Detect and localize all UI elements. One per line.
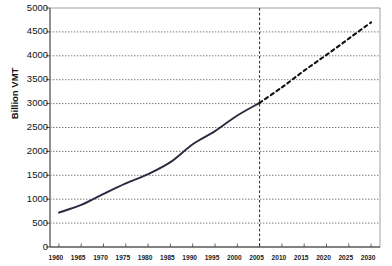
x-tick-label-2020: 2020 (316, 254, 331, 261)
x-tick-label-2005: 2005 (249, 254, 264, 261)
y-tick-label-1000: 1000 (14, 194, 48, 204)
x-tick-label-1990: 1990 (182, 254, 197, 261)
x-tick-label-2015: 2015 (294, 254, 309, 261)
x-tick-label-1975: 1975 (115, 254, 130, 261)
x-tick-label-1980: 1980 (138, 254, 153, 261)
y-tick-label-4500: 4500 (14, 26, 48, 36)
plot-area (0, 0, 392, 266)
y-tick-label-1500: 1500 (14, 170, 48, 180)
x-tick-label-1995: 1995 (205, 254, 220, 261)
y-tick-label-2000: 2000 (14, 146, 48, 156)
y-tick-label-0: 0 (14, 242, 48, 252)
x-tick-label-2025: 2025 (338, 254, 353, 261)
x-tick-label-2010: 2010 (272, 254, 287, 261)
x-tick-label-1960: 1960 (49, 254, 64, 261)
vmt-line-chart: Billion VMT 0500100015002000250030003500… (0, 0, 392, 266)
x-tick-label-2000: 2000 (227, 254, 242, 261)
x-tick-label-1985: 1985 (160, 254, 175, 261)
y-tick-label-2500: 2500 (14, 122, 48, 132)
x-tick-label-1970: 1970 (93, 254, 108, 261)
y-tick-label-3500: 3500 (14, 74, 48, 84)
y-tick-label-4000: 4000 (14, 50, 48, 60)
y-tick-label-500: 500 (14, 218, 48, 228)
x-tick-label-2030: 2030 (361, 254, 376, 261)
y-tick-label-5000: 5000 (14, 3, 48, 13)
y-tick-label-group: 0500100015002000250030003500400045005000 (10, 0, 48, 266)
y-tick-label-3000: 3000 (14, 98, 48, 108)
x-tick-label-1965: 1965 (71, 254, 86, 261)
